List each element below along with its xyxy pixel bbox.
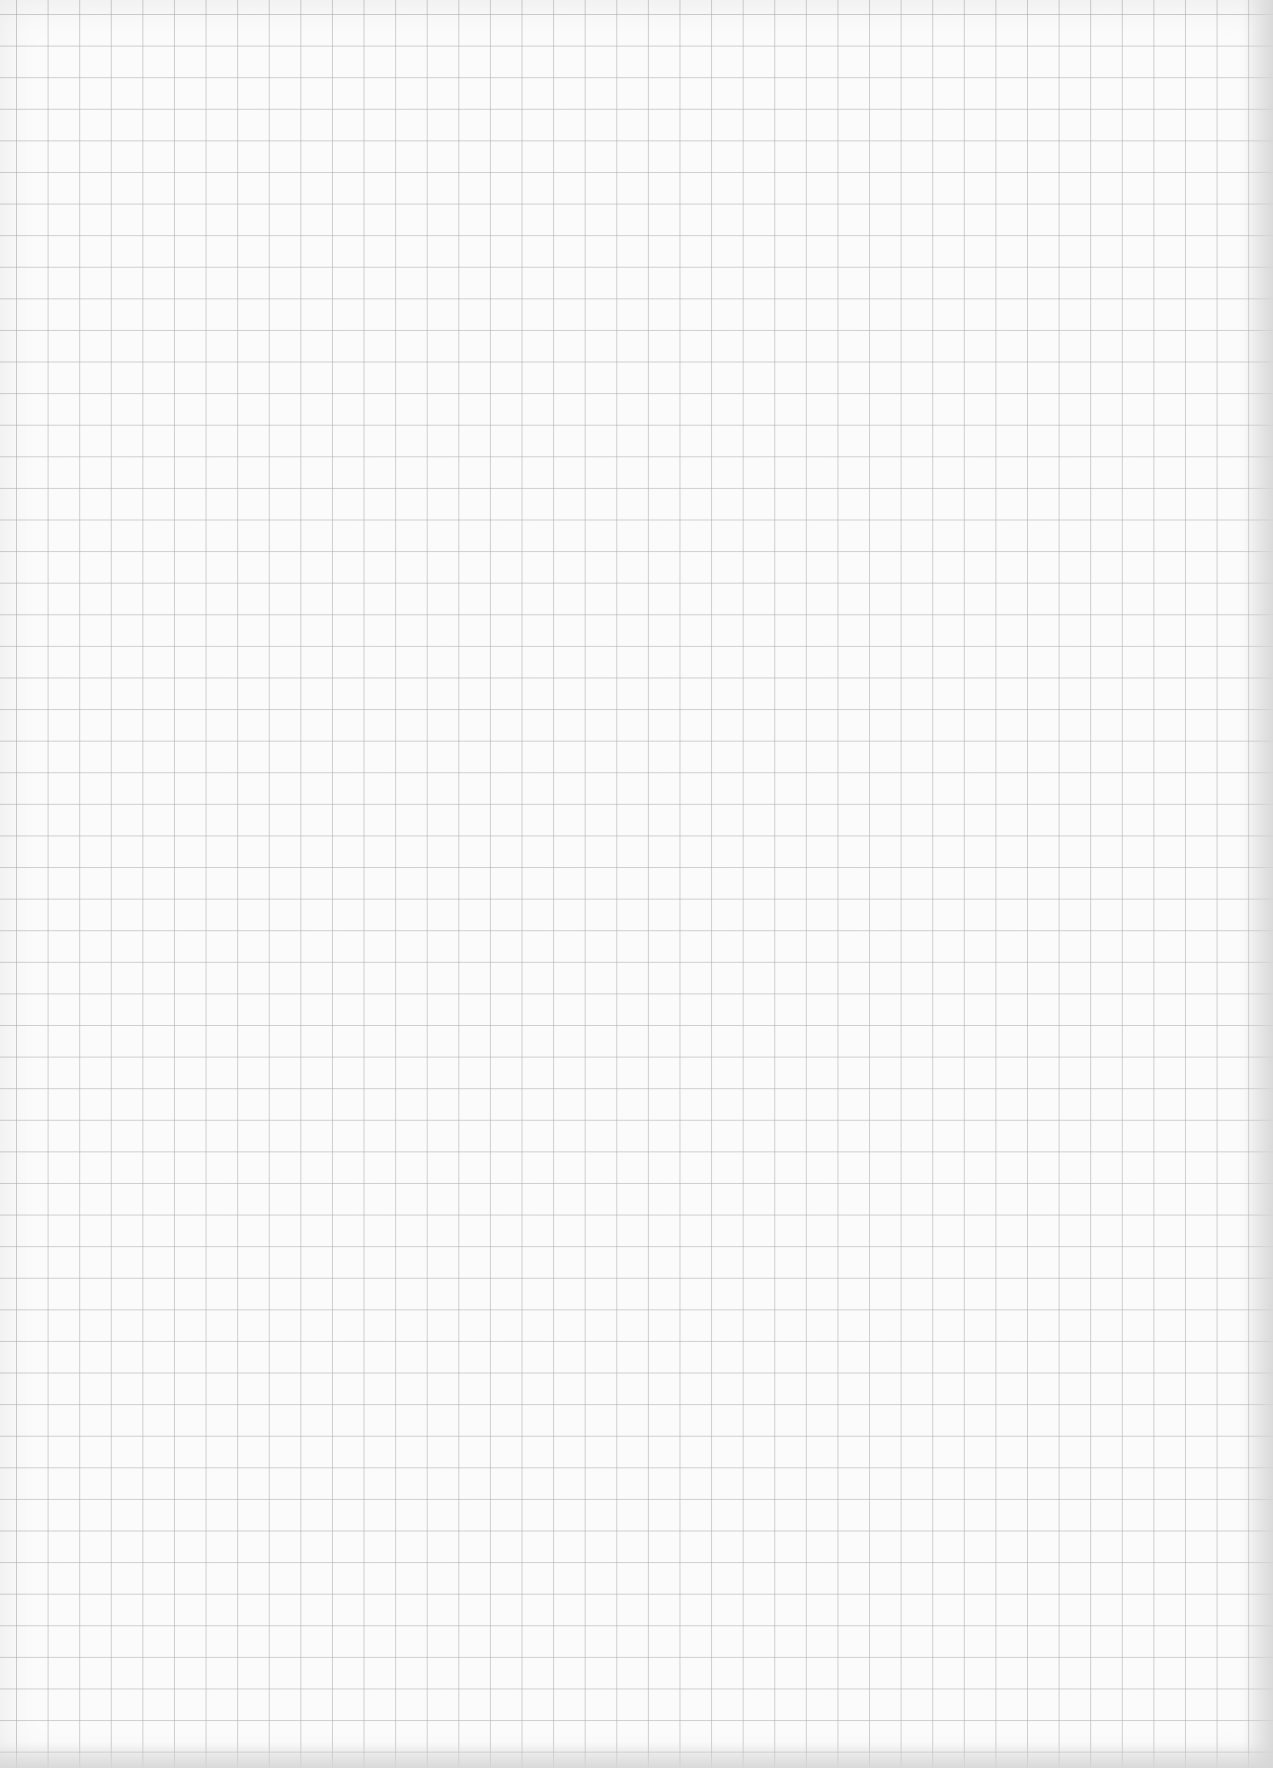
page-edge-shadow-bottom [0, 1742, 1273, 1768]
page-edge-shadow-right [1243, 0, 1273, 1768]
graph-paper-sheet [0, 0, 1273, 1768]
